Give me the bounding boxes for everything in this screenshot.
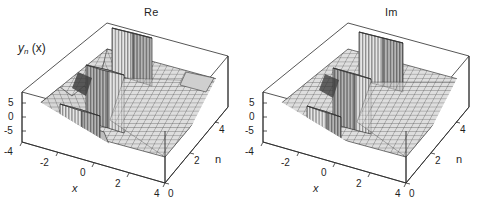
x-axis-name-im: x <box>313 182 319 194</box>
n-tick-4-re: 4 <box>219 124 225 135</box>
n-axis-name-re: n <box>215 153 221 165</box>
n-axis-name-im: n <box>456 153 462 165</box>
plot-panel-im: Im <box>241 0 482 216</box>
x-tick-0-im: 0 <box>321 167 327 178</box>
x-tick-2-im: 2 <box>356 178 362 189</box>
x-axis-name-re: x <box>72 182 78 194</box>
z-axis-ticks-re <box>22 103 26 131</box>
plot-panel-re: Re yn (x) <box>0 0 241 216</box>
n-tick-2-im: 2 <box>435 155 441 166</box>
x-tick-neg4-im: -4 <box>245 146 254 157</box>
z-tick-neg5-im: -5 <box>245 125 254 136</box>
x-tick-4-re: 4 <box>154 188 160 199</box>
z-tick-neg5-re: -5 <box>4 125 13 136</box>
n-tick-2-re: 2 <box>194 155 200 166</box>
x-tick-0-re: 0 <box>80 167 86 178</box>
n-tick-0-im: 0 <box>409 188 415 199</box>
n-tick-0-re: 0 <box>168 188 174 199</box>
x-tick-neg2-im: -2 <box>281 157 290 168</box>
z-axis-ticks-im <box>263 103 267 131</box>
z-tick-0-re: 0 <box>8 111 14 122</box>
z-tick-0-im: 0 <box>249 111 255 122</box>
figure-canvas: Re yn (x) <box>0 0 483 216</box>
z-tick-5-re: 5 <box>8 97 14 108</box>
x-tick-4-im: 4 <box>395 188 401 199</box>
x-tick-neg4-re: -4 <box>4 146 13 157</box>
x-tick-neg2-re: -2 <box>40 157 49 168</box>
z-tick-5-im: 5 <box>249 97 255 108</box>
n-tick-4-im: 4 <box>460 124 466 135</box>
x-tick-2-re: 2 <box>115 178 121 189</box>
